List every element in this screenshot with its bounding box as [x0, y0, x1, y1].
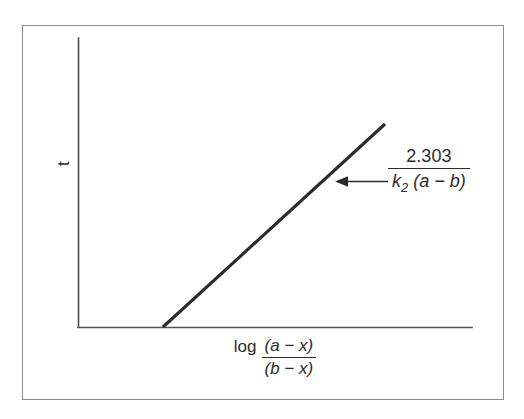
x-axis-label-denominator: (b − x) [262, 357, 317, 379]
x-axis-label-numerator: (a − x) [262, 336, 317, 357]
left-arrow-icon [335, 176, 388, 187]
slope-annotation-numerator: 2.303 [402, 146, 455, 168]
slope-annotation-fraction: 2.303 k2 (a − b) [388, 146, 470, 195]
y-axis-label: t [55, 149, 72, 179]
slope-annotation-factor: (a − b) [413, 171, 466, 191]
x-axis-label-log: log [234, 336, 262, 357]
data-line [163, 124, 385, 327]
x-axis-label: log (a − x) (b − x) [170, 336, 380, 378]
slope-annotation-denominator: k2 (a − b) [388, 168, 470, 195]
x-axis-label-fraction: (a − x) (b − x) [262, 336, 317, 378]
slope-annotation: 2.303 k2 (a − b) [388, 146, 470, 195]
rate-constant-symbol: k [392, 171, 401, 191]
figure-root: t log (a − x) (b − x) 2.303 k2 (a − b) [0, 0, 524, 419]
